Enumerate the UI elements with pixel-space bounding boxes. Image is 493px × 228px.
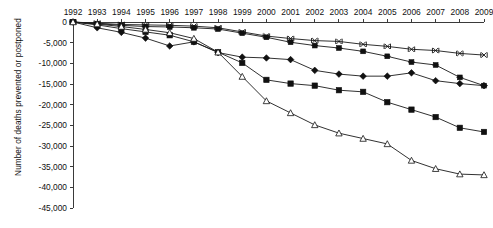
x-tick-1992: 1992 bbox=[64, 7, 83, 17]
data-point-marker bbox=[456, 75, 463, 80]
data-point-marker bbox=[408, 157, 414, 163]
data-point-marker bbox=[432, 166, 438, 172]
y-tick-label: -10,000 bbox=[39, 58, 68, 68]
data-point-marker bbox=[263, 35, 270, 40]
data-point-marker bbox=[336, 71, 343, 78]
y-tick-label: -20,000 bbox=[39, 100, 68, 110]
data-point-marker bbox=[264, 77, 269, 82]
series-line bbox=[73, 22, 484, 86]
data-point-marker bbox=[166, 43, 173, 50]
data-point-marker bbox=[142, 35, 149, 42]
y-tick-label: -30,000 bbox=[39, 141, 68, 151]
data-point-marker bbox=[457, 125, 462, 130]
data-point-marker bbox=[190, 25, 197, 30]
data-point-marker bbox=[287, 110, 293, 116]
x-tick-2001: 2001 bbox=[281, 7, 300, 17]
data-point-marker bbox=[408, 70, 415, 77]
data-point-marker bbox=[336, 130, 342, 136]
data-point-marker bbox=[481, 129, 486, 134]
series-diamond bbox=[70, 19, 488, 89]
series-line bbox=[73, 22, 484, 175]
data-point-marker bbox=[312, 122, 318, 128]
data-point-marker bbox=[360, 49, 367, 54]
y-tick-label: -35,000 bbox=[39, 162, 68, 172]
x-tick-1998: 1998 bbox=[209, 7, 228, 17]
x-tick-2003: 2003 bbox=[330, 7, 349, 17]
series-line bbox=[73, 22, 484, 132]
y-tick-label: 0 bbox=[62, 17, 67, 27]
series-open-triangle bbox=[70, 19, 487, 178]
x-tick-1993: 1993 bbox=[88, 7, 107, 17]
data-point-marker bbox=[384, 73, 391, 80]
data-point-marker bbox=[311, 67, 318, 74]
line-chart-plot: 1992199319941995199619971998199920002001… bbox=[0, 0, 493, 228]
y-tick-label: -45,000 bbox=[39, 203, 68, 213]
data-point-marker bbox=[360, 73, 367, 80]
data-point-marker bbox=[336, 46, 343, 51]
data-point-marker bbox=[384, 54, 391, 59]
x-tick-2007: 2007 bbox=[426, 7, 445, 17]
chart-container: Number of deaths prevented or postponed … bbox=[0, 0, 493, 228]
x-tick-2005: 2005 bbox=[378, 7, 397, 17]
data-point-marker bbox=[433, 114, 438, 119]
x-tick-2002: 2002 bbox=[305, 7, 324, 17]
data-point-marker bbox=[409, 107, 414, 112]
data-point-marker bbox=[239, 54, 246, 61]
data-point-marker bbox=[408, 60, 415, 65]
data-point-marker bbox=[432, 77, 439, 84]
x-tick-1997: 1997 bbox=[185, 7, 204, 17]
y-tick-label: -5,000 bbox=[43, 38, 67, 48]
x-axis-tick-labels: 1992199319941995199619971998199920002001… bbox=[64, 7, 493, 17]
x-tick-1996: 1996 bbox=[160, 7, 179, 17]
data-point-marker bbox=[457, 80, 464, 87]
data-point-marker bbox=[287, 56, 294, 63]
x-tick-2006: 2006 bbox=[402, 7, 421, 17]
data-point-marker bbox=[239, 31, 246, 36]
y-tick-label: -15,000 bbox=[39, 79, 68, 89]
x-tick-2009: 2009 bbox=[475, 7, 493, 17]
data-point-marker bbox=[385, 99, 390, 104]
data-point-marker bbox=[240, 60, 245, 65]
data-point-marker bbox=[288, 81, 293, 86]
data-series-group bbox=[70, 19, 488, 178]
x-tick-1995: 1995 bbox=[136, 7, 155, 17]
data-point-marker bbox=[336, 88, 341, 93]
data-point-marker bbox=[263, 55, 270, 62]
x-tick-1994: 1994 bbox=[112, 7, 131, 17]
y-tick-label: -25,000 bbox=[39, 120, 68, 130]
y-tick-label: -40,000 bbox=[39, 182, 68, 192]
series-cross bbox=[70, 19, 487, 57]
series-line bbox=[73, 22, 484, 55]
data-point-marker bbox=[432, 63, 439, 68]
data-point-marker bbox=[311, 43, 318, 48]
data-point-marker bbox=[215, 27, 222, 32]
data-point-marker bbox=[166, 25, 173, 30]
data-point-marker bbox=[312, 83, 317, 88]
x-tick-2000: 2000 bbox=[257, 7, 276, 17]
x-tick-1999: 1999 bbox=[233, 7, 252, 17]
y-axis-tick-labels: 0-5,000-10,000-15,000-20,000-25,000-30,0… bbox=[39, 17, 68, 213]
data-point-marker bbox=[360, 89, 365, 94]
x-tick-2004: 2004 bbox=[354, 7, 373, 17]
x-tick-2008: 2008 bbox=[451, 7, 470, 17]
data-point-marker bbox=[287, 40, 294, 45]
